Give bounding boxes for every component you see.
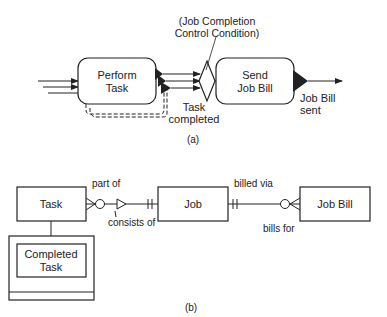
job-bill-sent-label: Job Bill (300, 92, 335, 104)
perform-task-label: Perform (97, 69, 136, 81)
entity-job-label: Job (184, 198, 202, 210)
condition-note-label: (Job Completion (179, 15, 256, 27)
crows-foot-icon (86, 198, 95, 204)
send-job-bill-label: Send (242, 69, 268, 81)
caption-b: (b) (185, 302, 197, 313)
output-triangle-icon (161, 82, 171, 94)
process-diagram-a: Perform Task (Job Completion Control Con… (38, 15, 342, 145)
optional-circle-icon (281, 200, 290, 209)
entity-completed-task-label: Completed (24, 248, 77, 260)
optional-circle-icon (96, 200, 105, 209)
entity-completed-task-label: Task (40, 261, 63, 273)
caption-a: (a) (187, 134, 199, 145)
send-job-bill-label: Job Bill (237, 82, 272, 94)
reading-direction-icon (117, 199, 126, 209)
relationship-bills-for-label: bills for (263, 223, 295, 234)
send-job-bill-activity: Send Job Bill (216, 58, 294, 104)
perform-task-activity: Perform Task (78, 58, 156, 104)
condition-note-label: Control Condition) (175, 27, 260, 39)
er-diagram-b: Task part of consists of Job billed via … (9, 178, 370, 313)
diagram-canvas: Perform Task (Job Completion Control Con… (0, 0, 387, 317)
relationship-part-of-label: part of (92, 178, 121, 189)
entity-job-bill: Job Bill (300, 187, 370, 221)
entity-completed-task: Completed Task (9, 236, 94, 300)
entity-job: Job (158, 187, 228, 221)
perform-task-label: Task (106, 82, 129, 94)
task-completed-label: Task (183, 101, 206, 113)
entity-job-bill-label: Job Bill (317, 198, 352, 210)
relationship-consists-of-label: consists of (108, 217, 155, 228)
entity-task: Task (17, 187, 86, 221)
note-leader-line (206, 37, 216, 70)
relationship-billed-via-label: billed via (234, 178, 273, 189)
entity-task-label: Task (40, 198, 63, 210)
output-triangle-icon (293, 70, 308, 92)
job-bill-sent-label: sent (300, 104, 321, 116)
task-completed-label: completed (169, 113, 220, 125)
crows-foot-icon (290, 198, 300, 204)
